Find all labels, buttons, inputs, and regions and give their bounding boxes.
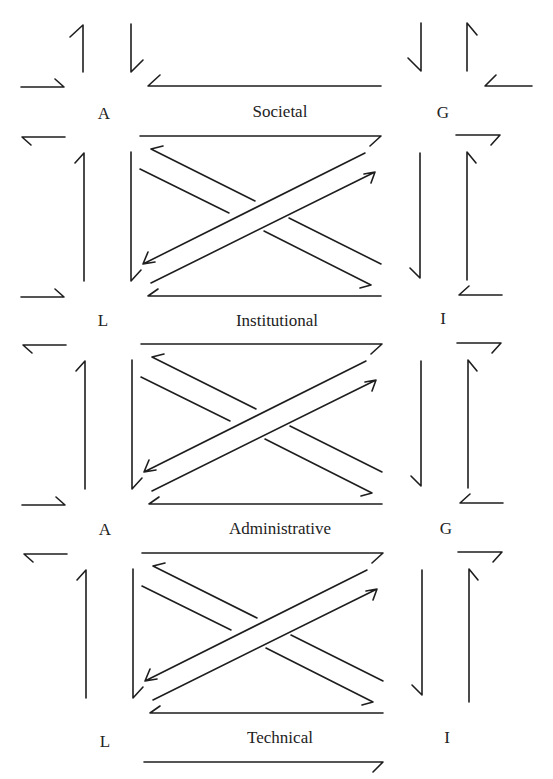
node-label-I-2: I — [444, 729, 450, 746]
level-label-societal: Societal — [253, 103, 308, 120]
node-label-I-1: I — [440, 310, 446, 327]
level-label-technical: Technical — [247, 729, 313, 746]
node-label-L-1: L — [98, 312, 108, 329]
interchange-block-2 — [22, 343, 503, 505]
node-label-G-2: G — [440, 520, 452, 537]
interchange-block-1 — [21, 135, 502, 297]
node-label-A-2: A — [99, 521, 111, 538]
node-label-L-2: L — [100, 733, 110, 750]
level-label-administrative: Administrative — [229, 520, 331, 537]
node-label-A-1: A — [98, 105, 110, 122]
top-connectors — [21, 23, 532, 87]
node-label-G-1: G — [437, 104, 449, 121]
level-label-institutional: Institutional — [236, 312, 318, 329]
interchange-block-3 — [24, 552, 502, 713]
bottom-connectors — [144, 762, 383, 772]
